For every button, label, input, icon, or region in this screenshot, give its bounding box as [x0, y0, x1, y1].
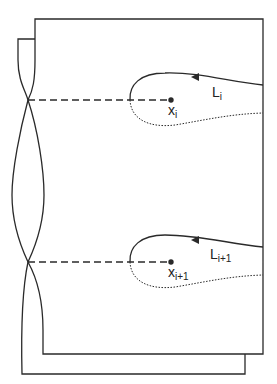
- diagram-canvas: [0, 0, 277, 384]
- label-base: L: [212, 84, 220, 100]
- label-xi: xi: [168, 103, 177, 120]
- label-base: x: [168, 264, 175, 280]
- label-Li: Li: [212, 85, 222, 102]
- label-sub: i: [220, 91, 222, 102]
- label-sub: i+1: [218, 253, 232, 264]
- front-sheet-outline: [28, 19, 263, 354]
- label-xi1: xi+1: [168, 265, 189, 282]
- label-base: x: [168, 102, 175, 118]
- loop-Li1-dotted: [130, 262, 263, 288]
- label-sub: i+1: [175, 271, 189, 282]
- label-Li1: Li+1: [210, 247, 231, 264]
- label-base: L: [210, 246, 218, 262]
- back-sheet-outline: [12, 39, 245, 374]
- label-sub: i: [175, 109, 177, 120]
- loop-Li-dotted: [130, 100, 263, 126]
